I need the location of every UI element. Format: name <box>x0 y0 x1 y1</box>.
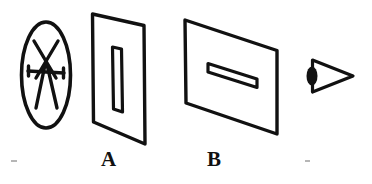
screen-b <box>185 20 277 134</box>
lamp-bulb <box>22 22 71 128</box>
eye-wedge-icon <box>313 60 354 92</box>
optics-figure: A B <box>0 0 372 184</box>
observer-eye <box>307 60 354 92</box>
screen-b-outline <box>185 20 277 134</box>
screen-a <box>93 14 146 144</box>
scan-speck <box>11 160 17 162</box>
screen-a-outline <box>93 14 146 144</box>
screen-b-horizontal-slit <box>208 64 257 88</box>
screen-a-vertical-slit <box>113 47 123 112</box>
lamp-support-bar-icon <box>28 71 64 73</box>
eye-lens-icon <box>307 67 318 86</box>
figure-canvas <box>0 0 372 184</box>
screen-b-label: B <box>207 149 222 170</box>
screen-a-label: A <box>101 149 117 170</box>
scan-speck <box>305 160 310 162</box>
lamp-filament-icon <box>34 41 58 108</box>
